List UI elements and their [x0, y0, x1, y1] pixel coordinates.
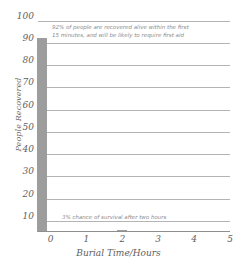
x-axis-tick-label: 1: [76, 234, 96, 244]
annotation-first-aid: 92% of people are recovered alive within…: [52, 23, 222, 39]
gridline: [38, 65, 230, 66]
y-axis-tick-label: 80: [0, 56, 34, 65]
annotation-survival: 3% chance of survival after two hours: [62, 213, 222, 221]
y-axis-tick-label: 70: [0, 78, 34, 87]
y-axis-tick-label: 40: [0, 145, 34, 154]
x-axis-title: Burial Time/Hours: [0, 248, 237, 258]
bar: [37, 38, 47, 232]
x-axis-tick-label: 2: [112, 234, 132, 244]
y-axis-tick-label: 90: [0, 34, 34, 43]
x-axis-line: [38, 231, 230, 232]
bar-chart: People Recovered 102030405060708090100 0…: [0, 0, 237, 266]
y-axis-tick-label: 60: [0, 101, 34, 110]
x-axis-tick-labels: 012345: [38, 234, 230, 248]
gridline: [38, 87, 230, 88]
x-axis-tick-label: 0: [41, 234, 61, 244]
y-axis-tick-label: 50: [0, 123, 34, 132]
gridline: [38, 199, 230, 200]
gridline: [38, 21, 230, 22]
plot-area: [38, 14, 230, 232]
x-axis-tick-label: 5: [220, 234, 237, 244]
x-axis-tick-label: 4: [184, 234, 204, 244]
y-axis-tick-label: 20: [0, 190, 34, 199]
y-axis-tick-labels: 102030405060708090100: [0, 14, 34, 232]
gridline: [38, 154, 230, 155]
y-axis-tick-label: 10: [0, 212, 34, 221]
x-axis-tick-label: 3: [148, 234, 168, 244]
gridline: [38, 132, 230, 133]
y-axis-tick-label: 30: [0, 167, 34, 176]
gridline: [38, 176, 230, 177]
y-axis-tick-label: 100: [0, 12, 34, 21]
gridline: [38, 110, 230, 111]
gridline: [38, 43, 230, 44]
gridline: [38, 221, 230, 222]
